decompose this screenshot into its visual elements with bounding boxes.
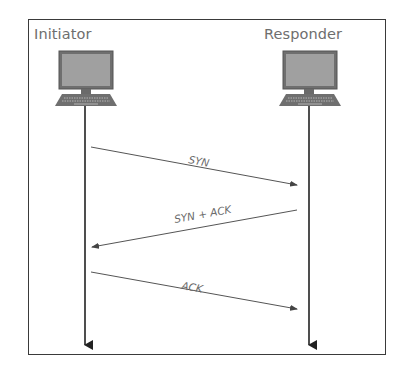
- ack-label: ACK: [180, 279, 205, 295]
- initiator-computer-icon: [55, 51, 117, 106]
- syn-label: SYN: [188, 153, 211, 169]
- syn-ack-label: SYN + ACK: [173, 203, 233, 225]
- sequence-diagram: SYN SYN + ACK ACK: [0, 0, 407, 375]
- responder-computer-icon: [279, 51, 341, 106]
